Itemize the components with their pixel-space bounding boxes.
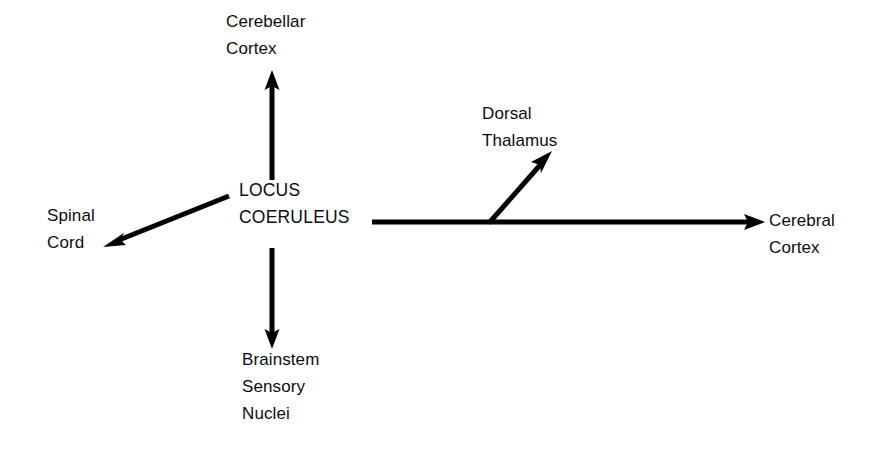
node-label-line: Cerebellar	[226, 8, 305, 35]
node-label-line: Sensory	[242, 373, 319, 400]
node-label-spinal-cord: Spinal Cord	[47, 202, 95, 256]
node-label-line: Cerebral	[769, 207, 835, 234]
arrow-to-cerebellar-cortex	[265, 70, 280, 180]
arrow-to-cerebral-cortex	[372, 214, 765, 230]
node-label-line: Spinal	[47, 202, 95, 229]
node-label-line: Nuclei	[242, 400, 319, 427]
node-label-dorsal-thalamus: Dorsal Thalamus	[482, 100, 557, 154]
diagram-canvas: Cerebellar Cortex Dorsal Thalamus Spinal…	[0, 0, 880, 449]
node-label-line: Cord	[47, 229, 95, 256]
node-label-brainstem-sensory-nuclei: Brainstem Sensory Nuclei	[242, 346, 319, 427]
arrow-to-dorsal-thalamus	[489, 151, 552, 223]
node-label-cerebellar-cortex: Cerebellar Cortex	[226, 8, 305, 62]
node-label-line: Brainstem	[242, 346, 319, 373]
node-label-line: Cortex	[769, 234, 835, 261]
node-label-line: Thalamus	[482, 127, 557, 154]
arrow-to-brainstem-sensory-nuclei	[265, 248, 280, 349]
diagram-arrows-layer	[0, 0, 880, 449]
node-label-line: COERULEUS	[239, 204, 350, 231]
arrow-to-spinal-cord	[103, 196, 229, 247]
node-label-line: LOCUS	[239, 177, 350, 204]
node-label-line: Dorsal	[482, 100, 557, 127]
node-label-locus-coeruleus: LOCUS COERULEUS	[239, 177, 350, 231]
node-label-cerebral-cortex: Cerebral Cortex	[769, 207, 835, 261]
node-label-line: Cortex	[226, 35, 305, 62]
